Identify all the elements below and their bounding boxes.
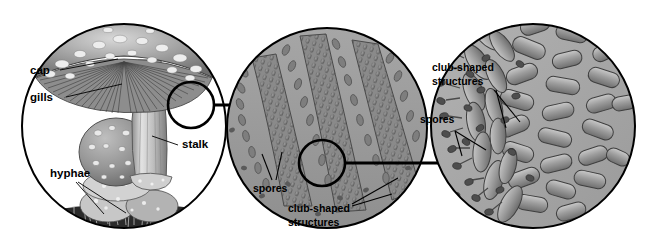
- label-club-shaped-line2-panel-3: structures: [432, 75, 484, 87]
- label-stalk: stalk: [182, 138, 209, 150]
- label-spores-panel-2: spores: [253, 182, 288, 194]
- label-club-shaped-line1-panel-3: club-shaped: [432, 61, 494, 73]
- panel-whole-mushroom: [22, 22, 226, 239]
- panel-gill-cross-section: [224, 23, 427, 228]
- label-hyphae: hyphae: [50, 167, 90, 179]
- label-spores-panel-3: spores: [420, 113, 455, 125]
- panel-basidia-detail: [431, 13, 637, 228]
- label-club-shaped-line1-panel-2: club-shaped: [288, 202, 350, 214]
- mushroom-magnification-diagram: cap gills stalk hyphae: [0, 0, 647, 251]
- label-club-shaped-line2-panel-2: structures: [288, 216, 340, 228]
- label-cap: cap: [30, 64, 50, 76]
- label-gills: gills: [30, 91, 53, 103]
- figure-canvas: cap gills stalk hyphae: [0, 0, 647, 251]
